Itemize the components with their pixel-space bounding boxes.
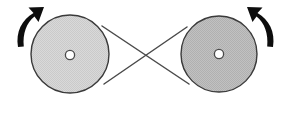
pulley-diagram-figure [0,0,291,113]
right-pulley-hub-icon [214,49,223,58]
right-pulley [181,16,257,92]
left-pulley [31,15,109,93]
left-pulley-hub-icon [65,50,74,59]
diagram-canvas [0,0,291,113]
